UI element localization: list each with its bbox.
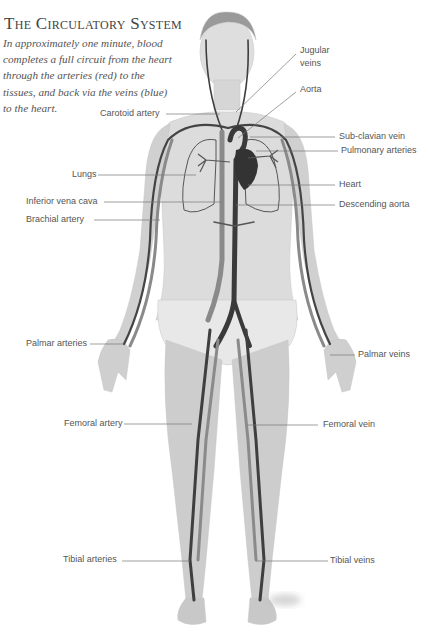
label-jugular: Jugular	[300, 45, 330, 56]
label-inferior-vena-cava: Inferior vena cava	[26, 196, 98, 207]
label-sub-clavian-vein: Sub-clavian vein	[339, 131, 405, 142]
label-palmar-arteries: Palmar arteries	[26, 338, 87, 349]
body-silhouette	[98, 12, 356, 625]
label-descending-aorta: Descending aorta	[339, 199, 410, 210]
label-femoral-vein: Femoral vein	[323, 419, 375, 430]
label-pulmonary-arteries: Pulmonary arteries	[341, 145, 417, 156]
label-carotid-artery: Carotoid artery	[100, 108, 160, 119]
label-heart: Heart	[339, 179, 361, 190]
label-lungs: Lungs	[72, 169, 97, 180]
label-palmar-veins: Palmar veins	[358, 349, 410, 360]
label-jugular-veins: veins	[300, 58, 321, 69]
label-brachial-artery: Brachial artery	[26, 214, 84, 225]
label-tibial-veins: Tibial veins	[330, 555, 375, 566]
label-tibial-arteries: Tibial arteries	[63, 554, 117, 565]
body-figure	[0, 0, 429, 633]
label-aorta: Aorta	[300, 84, 322, 95]
label-femoral-artery: Femoral artery	[64, 418, 123, 429]
